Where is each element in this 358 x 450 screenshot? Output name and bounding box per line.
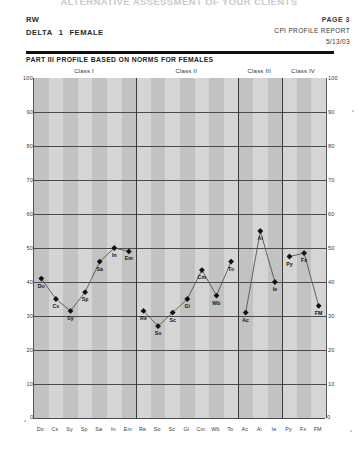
profile-line [34, 78, 326, 418]
y-tick-label: 90 [328, 109, 348, 115]
data-point-label: FM [307, 310, 327, 316]
y-axis-left-zero: 0 [13, 414, 33, 420]
data-point-label: Em [117, 255, 141, 261]
report-header: RW DELTA1FEMALE PAGE 3 CPI PROFILE REPOR… [0, 14, 358, 48]
data-point-label: Do [33, 283, 53, 289]
data-point-label: Sp [73, 296, 97, 302]
y-tick-label: 70 [328, 177, 348, 183]
y-tick-label: 30 [13, 313, 33, 319]
data-point-label: Gi [175, 303, 199, 309]
data-point-label: Ai [248, 235, 272, 241]
data-point-marker [199, 267, 205, 273]
y-tick-label: 80 [328, 143, 348, 149]
header-subject-block: RW DELTA1FEMALE [26, 14, 110, 39]
y-tick-label: 80 [13, 143, 33, 149]
form-number: 1 [59, 28, 64, 37]
cut-off-page-title: ALTERNATIVE ASSESSMENT OF YOUR CLIENTS [0, 0, 358, 8]
y-tick-label: 40 [328, 279, 348, 285]
y-tick-label: 100 [328, 75, 348, 81]
data-point-label: Re [132, 315, 156, 321]
y-tick-label: 50 [328, 245, 348, 251]
y-axis-right-zero: 0 [327, 414, 330, 420]
section-title: PART III PROFILE BASED ON NORMS FOR FEMA… [26, 56, 214, 63]
data-point-label: Sc [161, 317, 185, 323]
y-tick-label: 90 [13, 109, 33, 115]
data-point-marker [257, 228, 263, 234]
class-group-labels: Class IClass IIClass IIIClass IV [33, 68, 325, 78]
data-point-marker [272, 279, 278, 285]
x-axis-tick-labels: DoCsSySpSaInEmReSoScGiCmWbToAcAiIePyFxFM [33, 426, 325, 438]
y-tick-label: 100 [13, 75, 33, 81]
y-tick-label: 20 [328, 347, 348, 353]
data-point-marker [243, 310, 249, 316]
chart-plot-area: DoCsSySpSaInEmReSoScGiCmWbToAcAiIePyFxFM [33, 78, 327, 418]
data-point-label: Sa [88, 266, 112, 272]
y-tick-label: 10 [328, 381, 348, 387]
scan-speck [24, 420, 26, 422]
y-tick-label: 60 [328, 211, 348, 217]
y-tick-label: 30 [328, 313, 348, 319]
y-tick-label: 60 [13, 211, 33, 217]
data-point-marker [301, 250, 307, 256]
data-point-label: Fx [292, 257, 316, 263]
subject-id: RW [26, 14, 110, 27]
header-report-block: PAGE 3 CPI PROFILE REPORT 5/13/03 [274, 14, 350, 47]
data-point-marker [126, 249, 132, 255]
data-point-label: Sy [59, 315, 83, 321]
scan-speck [330, 412, 331, 413]
class-group-label: Class II [156, 68, 216, 74]
data-point-label: Ie [263, 286, 287, 292]
form-label: DELTA [26, 28, 53, 37]
scan-speck [350, 430, 352, 432]
gender-label: FEMALE [69, 28, 103, 37]
data-point-marker [316, 303, 322, 309]
y-tick-label: 50 [13, 245, 33, 251]
data-point-label: Ac [234, 317, 258, 323]
report-date: 5/13/03 [274, 36, 350, 47]
x-tick-label: FM [306, 426, 330, 432]
scan-speck [352, 110, 354, 112]
report-title: CPI PROFILE REPORT [274, 25, 350, 36]
y-tick-label: 20 [13, 347, 33, 353]
page-label: PAGE 3 [274, 14, 350, 25]
data-point-label: Cm [190, 274, 214, 280]
data-point-marker [38, 276, 44, 282]
y-tick-label: 10 [13, 381, 33, 387]
data-point-marker [214, 293, 220, 299]
x-axis [33, 418, 325, 419]
data-point-label: Cs [44, 303, 68, 309]
data-point-label: To [219, 266, 243, 272]
data-point-marker [228, 259, 234, 265]
data-point-label: Wb [205, 300, 229, 306]
data-point-label: So [146, 330, 170, 336]
class-group-label: Class IV [273, 68, 333, 74]
cpi-profile-chart: Class IClass IIClass IIIClass IV DoCsSyS… [0, 68, 358, 450]
class-group-label: Class I [54, 68, 114, 74]
y-tick-label: 40 [13, 279, 33, 285]
header-divider [26, 51, 334, 54]
y-tick-label: 70 [13, 177, 33, 183]
